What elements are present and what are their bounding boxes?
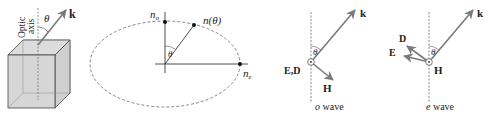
- theta-label: θ: [431, 47, 436, 57]
- h-label: H: [323, 82, 332, 94]
- e-wave-caption: e wave: [426, 101, 455, 112]
- e-wave-panel: θ k D E H e wave: [389, 7, 484, 112]
- birefringence-diagram: θ k Optic axis θ no n(θ) ne θ k E,D H: [0, 0, 490, 115]
- d-label: D: [399, 33, 406, 44]
- k-arrow: [429, 10, 473, 62]
- theta-label: θ: [168, 49, 173, 59]
- crystal-panel: θ k Optic axis: [8, 7, 76, 108]
- n-theta-point: [192, 23, 196, 27]
- o-wave-panel: θ k E,D H o wave: [284, 7, 367, 112]
- k-label: k: [477, 7, 484, 19]
- out-of-page-dot: [428, 61, 430, 63]
- k-arrow: [311, 10, 355, 62]
- e-label: E: [389, 47, 396, 58]
- ed-label: E,D: [284, 65, 300, 76]
- h-label: H: [434, 64, 443, 76]
- optic-axis-label-line2: axis: [26, 18, 36, 34]
- crystal-front-face: [8, 55, 55, 108]
- k-label: k: [69, 7, 76, 21]
- h-arrow: [311, 62, 333, 80]
- no-point: [163, 20, 167, 24]
- no-label: no: [150, 8, 160, 22]
- ne-label: ne: [243, 67, 252, 81]
- theta-label: θ: [44, 12, 50, 24]
- k-label: k: [360, 7, 367, 19]
- index-ellipse-panel: θ no n(θ) ne: [90, 8, 252, 107]
- ne-point: [238, 62, 242, 66]
- out-of-page-dot: [310, 61, 312, 63]
- theta-label: θ: [313, 47, 318, 57]
- n-theta-label: n(θ): [203, 14, 222, 27]
- o-wave-caption: o wave: [315, 101, 344, 112]
- theta-arc: [38, 27, 48, 32]
